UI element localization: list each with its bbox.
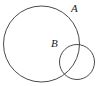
- label-a: A: [70, 2, 78, 14]
- circle-diagram: A B: [0, 0, 99, 86]
- label-b: B: [51, 37, 58, 49]
- diagram-background: [0, 0, 99, 86]
- diagram-canvas: A B: [0, 0, 99, 86]
